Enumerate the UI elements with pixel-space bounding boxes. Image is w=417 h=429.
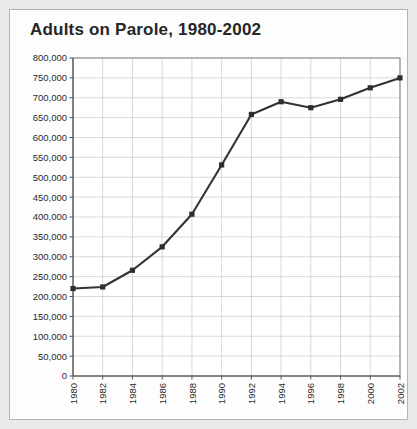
y-axis-tick-label: 450,000 xyxy=(33,192,67,203)
data-point-marker xyxy=(397,75,402,80)
data-point-marker xyxy=(100,284,105,289)
x-axis-tick-label: 1986 xyxy=(157,383,168,404)
data-point-marker xyxy=(130,268,135,273)
y-axis-tick-label: 50,000 xyxy=(38,351,67,362)
x-axis-tick-label: 1984 xyxy=(127,383,138,404)
data-point-marker xyxy=(308,105,313,110)
x-axis-tick-label: 1990 xyxy=(216,383,227,404)
y-axis-tick-label: 250,000 xyxy=(33,271,67,282)
line-chart-svg: 800,000750,000700,000650,000600,000550,0… xyxy=(10,10,409,421)
y-axis-tick-label: 0 xyxy=(62,370,67,381)
x-axis-tick-label: 1996 xyxy=(305,383,316,404)
x-axis-tick-label: 2002 xyxy=(395,383,406,404)
y-axis-tick-label: 650,000 xyxy=(33,112,67,123)
x-axis-tick-label: 2000 xyxy=(365,383,376,404)
chart-figure: Adults on Parole, 1980-2002 800,000750,0… xyxy=(9,9,408,420)
x-axis-tick-label: 1988 xyxy=(187,383,198,404)
y-axis-tick-label: 700,000 xyxy=(33,92,67,103)
x-axis-tick-label: 1980 xyxy=(68,383,79,404)
y-axis-tick-label: 150,000 xyxy=(33,311,67,322)
data-point-marker xyxy=(278,99,283,104)
x-axis-tick-label: 1994 xyxy=(276,383,287,404)
y-axis-tick-label: 350,000 xyxy=(33,231,67,242)
data-point-marker xyxy=(219,162,224,167)
y-axis-tick-label: 300,000 xyxy=(33,251,67,262)
y-axis-tick-label: 550,000 xyxy=(33,152,67,163)
data-point-marker xyxy=(249,112,254,117)
x-axis-tick-label: 1998 xyxy=(335,383,346,404)
y-axis-tick-label: 600,000 xyxy=(33,132,67,143)
y-axis-tick-label: 750,000 xyxy=(33,72,67,83)
x-axis-tick-label: 1992 xyxy=(246,383,257,404)
grid-group xyxy=(73,58,400,376)
y-axis-tick-labels: 800,000750,000700,000650,000600,000550,0… xyxy=(33,52,67,381)
y-axis-tick-label: 200,000 xyxy=(33,291,67,302)
data-point-marker xyxy=(338,97,343,102)
y-axis-tick-label: 500,000 xyxy=(33,172,67,183)
y-axis-tick-label: 400,000 xyxy=(33,211,67,222)
data-point-marker xyxy=(368,85,373,90)
x-axis-tick-label: 1982 xyxy=(97,383,108,404)
data-point-marker xyxy=(160,244,165,249)
y-axis-tick-label: 100,000 xyxy=(33,331,67,342)
data-point-marker xyxy=(189,212,194,217)
x-axis-tick-labels: 1980198219841986198819901992199419961998… xyxy=(68,383,406,404)
y-axis-tick-label: 800,000 xyxy=(33,52,67,63)
plot-area: 800,000750,000700,000650,000600,000550,0… xyxy=(10,10,409,421)
data-point-marker xyxy=(70,286,75,291)
